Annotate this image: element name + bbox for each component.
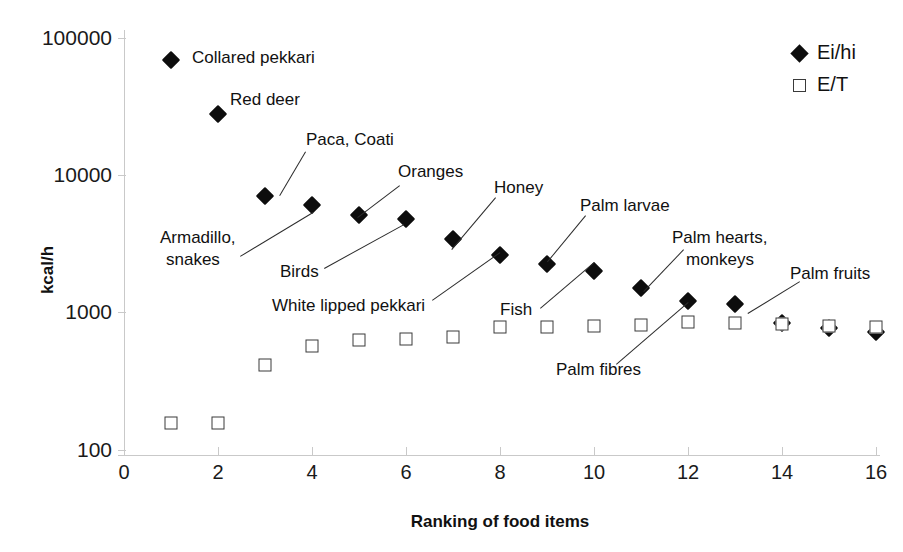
data-point-et-14 xyxy=(776,317,789,330)
x-tick-label-6: 6 xyxy=(376,460,436,484)
leader-birds xyxy=(324,224,404,269)
data-point-et-6 xyxy=(400,333,413,346)
data-point-eihi-1 xyxy=(162,51,180,69)
x-tick-label-16: 16 xyxy=(846,460,903,484)
data-point-eihi-2 xyxy=(209,105,227,123)
x-axis-title: Ranking of food items xyxy=(124,512,876,532)
x-tick-mark-8 xyxy=(500,447,501,456)
annotation-palm-hearts-line1: Palm hearts, xyxy=(672,228,767,248)
leader-white-lipped xyxy=(432,252,501,301)
annotation-red-deer: Red deer xyxy=(230,90,300,110)
annotation-birds: Birds xyxy=(280,262,319,282)
annotation-palm-hearts-line2: monkeys xyxy=(686,250,754,270)
x-tick-mark-6 xyxy=(406,447,407,456)
leader-oranges xyxy=(357,185,400,218)
data-point-et-13 xyxy=(729,317,742,330)
leader-paca-coati xyxy=(279,151,306,195)
y-tick-label-10000: 10000 xyxy=(8,163,112,187)
data-point-eihi-9 xyxy=(538,255,556,273)
scatter-chart: 100000 10000 1000 100 kcal/h Ranking of … xyxy=(0,0,903,552)
leader-palm-fibres xyxy=(616,302,689,365)
annotation-collared-pekkari: Collared pekkari xyxy=(192,48,315,68)
legend-label-e-t: E/T xyxy=(817,72,848,96)
data-point-et-9 xyxy=(541,320,554,333)
data-point-et-4 xyxy=(306,340,319,353)
x-tick-mark-2 xyxy=(218,447,219,456)
data-point-et-3 xyxy=(259,359,272,372)
data-point-et-10 xyxy=(588,320,601,333)
annotation-white-lipped-pekkari: White lipped pekkari xyxy=(272,296,425,316)
legend-label-ei-hi: Ei/hi xyxy=(817,40,856,64)
data-point-et-11 xyxy=(635,319,648,332)
x-tick-label-10: 10 xyxy=(564,460,624,484)
data-point-et-15 xyxy=(823,320,836,333)
data-point-et-16 xyxy=(870,320,883,333)
annotation-armadillo-line1: Armadillo, xyxy=(160,228,236,248)
leader-palm-fruits xyxy=(747,281,800,314)
x-tick-label-14: 14 xyxy=(752,460,812,484)
x-tick-mark-4 xyxy=(312,447,313,456)
y-axis-line xyxy=(124,30,125,455)
y-tick-mark-10000 xyxy=(118,175,126,176)
x-tick-label-8: 8 xyxy=(470,460,530,484)
y-tick-label-100: 100 xyxy=(8,438,112,462)
leader-palm-larvae xyxy=(547,215,586,262)
data-point-et-1 xyxy=(165,416,178,429)
y-tick-mark-1000 xyxy=(118,312,126,313)
data-point-et-5 xyxy=(353,334,366,347)
annotation-palm-larvae: Palm larvae xyxy=(580,196,670,216)
annotation-palm-fibres: Palm fibres xyxy=(556,360,641,380)
x-tick-mark-10 xyxy=(594,447,595,456)
annotation-oranges: Oranges xyxy=(398,162,463,182)
x-tick-mark-12 xyxy=(688,447,689,456)
data-point-eihi-10 xyxy=(585,262,603,280)
x-tick-label-4: 4 xyxy=(282,460,342,484)
annotation-fish: Fish xyxy=(500,300,532,320)
x-tick-mark-14 xyxy=(782,447,783,456)
x-tick-mark-0 xyxy=(124,447,125,456)
leader-palm-hearts xyxy=(643,249,684,292)
data-point-et-7 xyxy=(447,330,460,343)
y-tick-mark-100000 xyxy=(118,38,126,39)
open-square-icon xyxy=(793,79,806,92)
data-point-eihi-3 xyxy=(256,187,274,205)
y-axis-title: kcal/h xyxy=(38,210,58,330)
leader-honey xyxy=(451,197,496,250)
leader-armadillo xyxy=(240,212,314,257)
data-point-et-8 xyxy=(494,320,507,333)
filled-diamond-icon xyxy=(790,44,808,62)
annotation-honey: Honey xyxy=(494,178,543,198)
x-tick-label-0: 0 xyxy=(94,460,154,484)
annotation-palm-fruits: Palm fruits xyxy=(790,264,870,284)
data-point-et-12 xyxy=(682,316,695,329)
x-tick-mark-16 xyxy=(876,447,877,456)
y-tick-label-100000: 100000 xyxy=(8,26,112,50)
x-tick-label-12: 12 xyxy=(658,460,718,484)
x-tick-label-2: 2 xyxy=(188,460,248,484)
y-tick-label-1000: 1000 xyxy=(8,300,112,324)
annotation-armadillo-line2: snakes xyxy=(166,250,220,270)
x-axis-line xyxy=(118,455,880,456)
data-point-et-2 xyxy=(212,416,225,429)
data-point-eihi-13 xyxy=(726,294,744,312)
annotation-paca-coati: Paca, Coati xyxy=(306,130,394,150)
